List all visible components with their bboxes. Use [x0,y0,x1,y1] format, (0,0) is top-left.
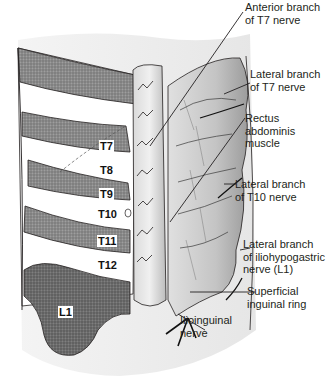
callout-lateral-branch-t7: Lateral branch of T7 nerve [250,68,320,93]
segment-label-l1: L1 [58,306,73,318]
segment-label-t12: T12 [97,259,118,271]
callout-ilioinguinal-nerve: Ilioinguinal nerve [180,314,232,339]
callout-lateral-branch-t10: Lateral branch of T10 nerve [235,178,305,203]
segment-label-t7: T7 [99,140,114,152]
segment-label-t9: T9 [99,188,114,200]
segment-label-t11: T11 [97,235,117,247]
dermatome-bands [18,48,136,355]
callout-anterior-branch-t7: Anterior branch of T7 nerve [245,1,320,26]
callout-superficial-inguinal-ring: Superficial inguinal ring [247,285,306,310]
callout-rectus-abdominis: Rectus abdominis muscle [245,112,295,150]
abdominal-wall-diagram: T7 T8 T9 T10 T11 T12 L1 Anterior branch … [0,0,335,383]
segment-label-t8: T8 [99,164,114,176]
segment-label-t10: T10 [97,208,118,220]
callout-lateral-branch-iliohypogastric: Lateral branch of iliohypogastric nerve … [243,238,325,276]
umbilicus [125,209,131,217]
